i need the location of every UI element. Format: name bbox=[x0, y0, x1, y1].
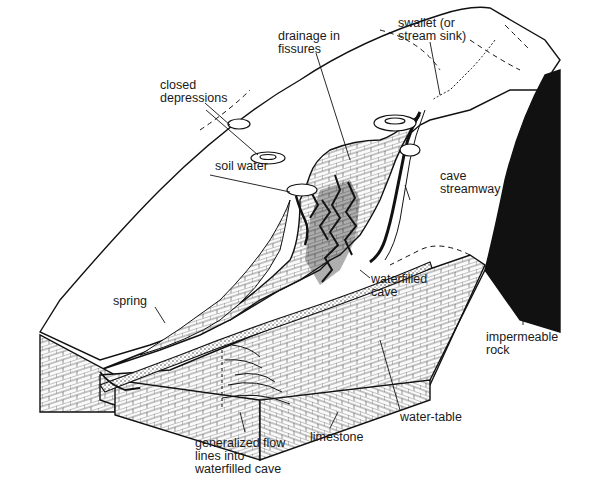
label-drainage-in-fissures: drainage in fissures bbox=[278, 30, 340, 56]
karst-block-diagram bbox=[0, 0, 595, 487]
label-impermeable-rock: impermeable rock bbox=[486, 331, 558, 357]
doline-3 bbox=[228, 119, 250, 129]
label-swallet: swallet (or stream sink) bbox=[398, 17, 466, 43]
label-soil-water: soil water bbox=[215, 160, 268, 173]
label-waterfilled-cave: waterfilled cave bbox=[371, 273, 427, 299]
label-spring: spring bbox=[113, 295, 147, 308]
label-generalized-flow-lines: generalized flow lines into waterfilled … bbox=[195, 437, 285, 476]
impermeable-rock bbox=[485, 70, 560, 332]
label-water-table: water-table bbox=[400, 411, 462, 424]
doline-4 bbox=[287, 184, 317, 196]
doline-5 bbox=[400, 144, 420, 156]
label-closed-depressions: closed depressions bbox=[160, 79, 227, 105]
label-cave-streamway: cave streamway bbox=[440, 170, 500, 196]
label-limestone: limestone bbox=[310, 431, 364, 444]
